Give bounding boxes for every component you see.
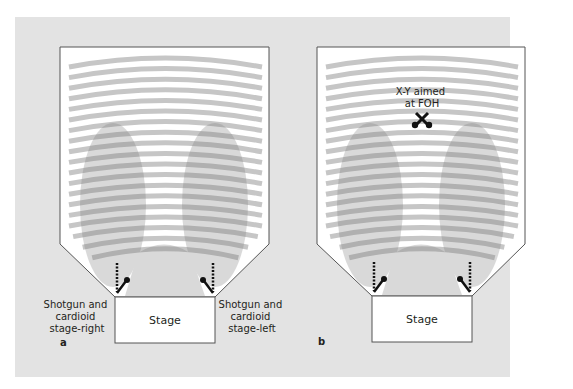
panel-letter-a: a [60,337,67,348]
cardioid-mic-icon [124,277,130,283]
stage-label: Stage [149,314,181,327]
cardioid-mic-icon [200,277,206,283]
cardioid-mic-icon [457,276,463,282]
microphone-placement-diagram: Stage Shotgun and cardioid stage-right S… [0,0,573,389]
panel-letter-b: b [318,336,325,347]
stage-label: Stage [406,313,438,326]
panel-a: Stage Shotgun and cardioid stage-right S… [44,47,286,348]
cardioid-mic-icon [381,276,387,282]
